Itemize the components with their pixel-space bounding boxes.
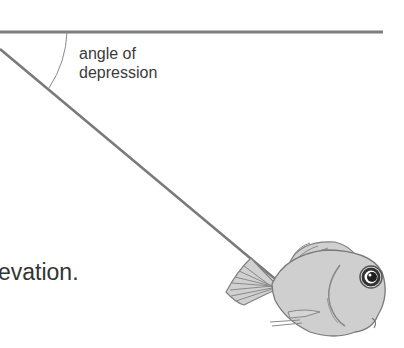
angle-of-depression-label: angle of depression: [79, 44, 157, 82]
angle-label-line1: angle of: [79, 44, 157, 63]
fish-icon: [226, 242, 385, 336]
caption-text: evation.: [0, 259, 79, 285]
angle-label-line2: depression: [79, 63, 157, 82]
angle-arc: [49, 32, 67, 88]
sight-line: [0, 49, 280, 283]
fish-tail-fin: [226, 258, 275, 305]
angle-of-depression-diagram: [0, 0, 404, 348]
